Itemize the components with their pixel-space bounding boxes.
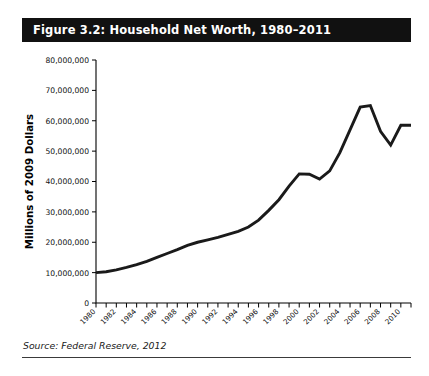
y-tick-label: 40,000,000 <box>46 177 90 186</box>
x-tick-label: 1980 <box>78 307 98 327</box>
x-tick-label: 2002 <box>302 307 321 326</box>
chart-plot-area: 010,000,00020,000,00030,000,00040,000,00… <box>0 0 429 376</box>
y-axis-label: Millions of 2009 Dollars <box>24 114 35 249</box>
source-note: Source: Federal Reserve, 2012 <box>23 340 166 351</box>
data-series <box>96 106 411 273</box>
y-tick-label: 60,000,000 <box>46 117 90 126</box>
y-tick-label: 30,000,000 <box>46 208 90 217</box>
x-tick-label: 1996 <box>241 307 261 327</box>
bottom-divider <box>22 357 411 358</box>
axis-lines <box>96 60 411 303</box>
y-axis-title: Millions of 2009 Dollars <box>24 114 35 249</box>
x-tick-label: 1998 <box>261 307 281 327</box>
net-worth-line <box>96 106 411 273</box>
y-axis: 010,000,00020,000,00030,000,00040,000,00… <box>46 56 96 308</box>
x-tick-label: 1984 <box>119 307 139 327</box>
x-tick-label: 1992 <box>200 307 219 326</box>
x-tick-label: 1994 <box>220 307 240 327</box>
x-tick-label: 1990 <box>180 307 200 327</box>
x-tick-label: 1988 <box>159 307 179 327</box>
x-tick-label: 2004 <box>322 307 342 327</box>
figure-container: Figure 3.2: Household Net Worth, 1980–20… <box>0 0 429 376</box>
y-tick-label: 70,000,000 <box>46 86 90 95</box>
x-tick-label: 2000 <box>281 307 301 327</box>
y-tick-label: 20,000,000 <box>46 238 90 247</box>
line-chart: 010,000,00020,000,00030,000,00040,000,00… <box>0 0 429 376</box>
x-axis: 1980198219841986198819901992199419961998… <box>78 303 411 326</box>
x-tick-label: 1982 <box>98 307 117 326</box>
y-tick-label: 50,000,000 <box>46 147 90 156</box>
x-tick-label: 1986 <box>139 307 159 327</box>
y-tick-label: 10,000,000 <box>46 269 90 278</box>
x-tick-label: 2006 <box>342 307 362 327</box>
y-tick-label: 0 <box>84 299 89 308</box>
x-tick-label: 2008 <box>363 307 383 327</box>
y-tick-label: 80,000,000 <box>46 56 90 65</box>
x-tick-label: 2010 <box>383 307 403 327</box>
